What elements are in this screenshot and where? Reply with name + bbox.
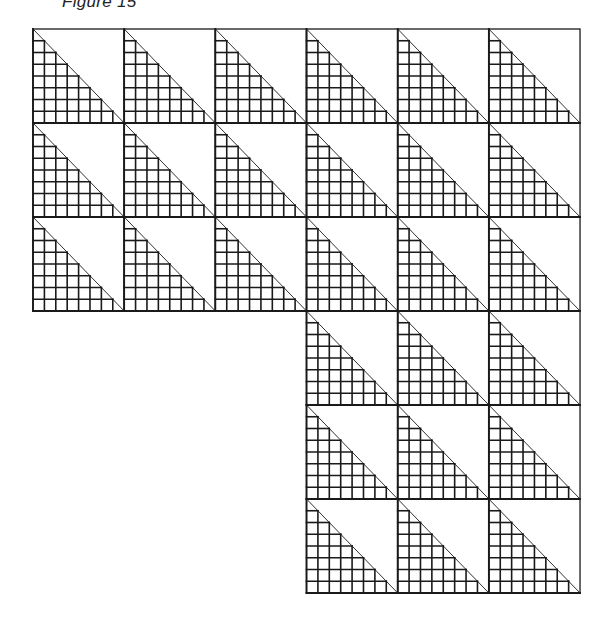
half-square-triangle-tile [215,217,306,311]
half-square-triangle-tile [398,123,489,217]
half-square-triangle-tile [307,123,398,217]
half-square-triangle-tile [398,311,489,405]
half-square-triangle-tile [489,123,580,217]
half-square-triangle-tile [489,405,580,499]
half-square-triangle-tile [124,123,215,217]
half-square-triangle-tile [307,311,398,405]
half-square-triangle-tile [398,29,489,123]
half-square-triangle-tile [33,217,124,311]
tile-grid [33,29,580,593]
half-square-triangle-tile [215,29,306,123]
half-square-triangle-tile [307,29,398,123]
half-square-triangle-tile [124,29,215,123]
half-square-triangle-tile [398,405,489,499]
half-square-triangle-tile [33,29,124,123]
half-square-triangle-tile [33,123,124,217]
half-square-triangle-tile [124,217,215,311]
half-square-triangle-tile [215,123,306,217]
half-square-triangle-tile [307,499,398,593]
half-square-triangle-tile [489,311,580,405]
half-square-triangle-tile [307,217,398,311]
half-square-triangle-tile [307,405,398,499]
half-square-triangle-tile [489,499,580,593]
half-square-triangle-tile [398,217,489,311]
half-square-triangle-tile [398,499,489,593]
half-square-triangle-tile [489,29,580,123]
half-square-triangle-tile [489,217,580,311]
quilt-diagram [0,0,607,629]
